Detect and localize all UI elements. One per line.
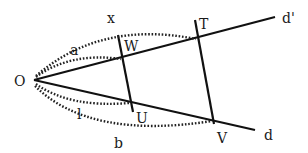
- label-o: O: [14, 73, 25, 89]
- arc-b: [35, 86, 212, 126]
- label-d-prime: d': [282, 10, 295, 26]
- label-v: V: [216, 130, 228, 146]
- label-a: a: [70, 42, 78, 58]
- label-d: d: [264, 127, 273, 143]
- geometry-diagram: O W T U V d' d x a l b: [0, 0, 308, 153]
- label-l: l: [77, 106, 82, 122]
- arc-l: [36, 84, 129, 104]
- label-t: T: [199, 16, 209, 32]
- label-w: W: [124, 38, 139, 54]
- label-u: U: [136, 110, 148, 126]
- label-x: x: [107, 10, 115, 26]
- arc-x: [36, 34, 196, 76]
- label-b: b: [114, 135, 123, 151]
